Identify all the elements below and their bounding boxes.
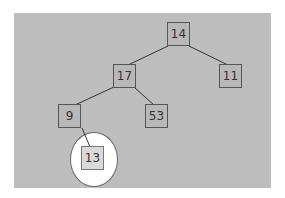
tree-node-17: 17: [113, 64, 136, 88]
node-label: 9: [66, 109, 74, 123]
tree-node-14: 14: [167, 22, 190, 46]
node-label: 17: [117, 69, 132, 83]
tree-node-53: 53: [145, 104, 168, 128]
node-label: 53: [149, 109, 164, 123]
tree-node-13: 13: [81, 146, 104, 170]
tree-node-11: 11: [219, 64, 242, 88]
node-label: 14: [171, 27, 186, 41]
node-label: 11: [223, 69, 238, 83]
tree-node-9: 9: [58, 104, 81, 128]
edge-9-13: [82, 128, 90, 147]
node-label: 13: [85, 151, 100, 165]
tree-edges-overlay: [0, 0, 285, 198]
